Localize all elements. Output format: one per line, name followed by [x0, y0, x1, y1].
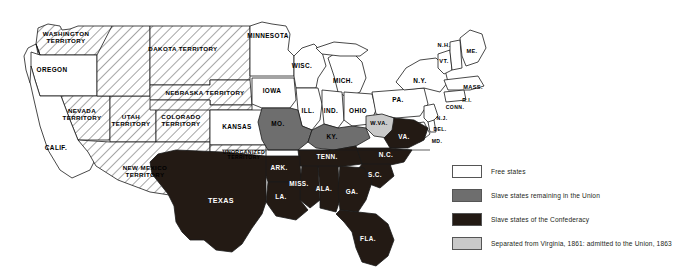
region-mississippi	[300, 166, 320, 208]
legend-label-separated-virginia: Separated from Virginia, 1861: admitted …	[491, 240, 672, 247]
legend-row-separated-virginia: Separated from Virginia, 1861: admitted …	[452, 232, 692, 254]
region-connecticut	[444, 90, 466, 102]
region-michigan-up	[316, 42, 368, 56]
legend-label-free-states: Free states	[491, 168, 526, 175]
map-legend: Free statesSlave states remaining in the…	[452, 160, 692, 256]
legend-row-union-slave-states: Slave states remaining in the Union	[452, 184, 692, 206]
region-georgia	[338, 166, 372, 212]
region-indiana	[322, 90, 344, 128]
region-kentucky	[308, 124, 370, 150]
region-florida	[336, 210, 394, 266]
region-arkansas	[264, 156, 302, 182]
legend-row-confederacy: Slave states of the Confederacy	[452, 208, 692, 230]
legend-swatch-free-states	[452, 165, 482, 178]
region-alabama	[318, 166, 340, 212]
region-maine	[460, 30, 486, 66]
region-massachusetts	[444, 76, 484, 90]
civil-war-map: WASHINGTON TERRITORYOREGONNEVADA TERRITO…	[0, 0, 696, 280]
legend-label-union-slave-states: Slave states remaining in the Union	[491, 192, 600, 199]
region-dakota-territory	[150, 26, 250, 85]
region-pennsylvania	[372, 88, 428, 118]
region-utah-territory	[110, 96, 156, 142]
legend-swatch-union-slave-states	[452, 189, 482, 202]
legend-swatch-separated-virginia	[452, 237, 482, 250]
legend-row-free-states: Free states	[452, 160, 692, 182]
region-oregon-body	[31, 52, 97, 96]
region-minnesota	[250, 22, 294, 76]
legend-label-confederacy: Slave states of the Confederacy	[491, 216, 589, 223]
region-new-england-nh	[450, 40, 462, 70]
region-delaware	[428, 120, 436, 132]
region-texas	[150, 150, 266, 252]
region-iowa	[252, 78, 296, 108]
region-colorado-territory	[156, 105, 210, 142]
region-kansas	[210, 110, 266, 145]
legend-swatch-confederacy	[452, 213, 482, 226]
